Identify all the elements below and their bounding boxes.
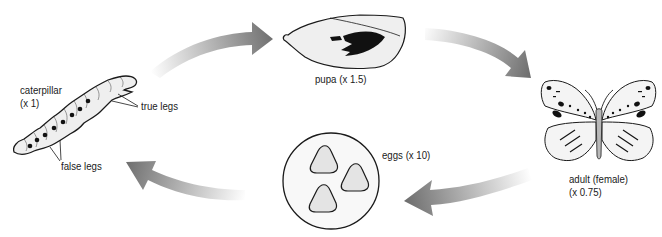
true-legs-label: true legs bbox=[141, 100, 178, 113]
pupa-illustration bbox=[283, 15, 405, 69]
arrow-adult-to-eggs bbox=[404, 168, 532, 216]
adult-scale-label: (x 0.75) bbox=[569, 186, 602, 199]
eggs-illustration bbox=[283, 133, 379, 229]
pupa-label: pupa (x 1.5) bbox=[315, 73, 367, 86]
caterpillar-scale-label: (x 1) bbox=[20, 97, 39, 110]
arrow-pupa-to-adult bbox=[425, 28, 531, 78]
caterpillar-label: caterpillar bbox=[20, 84, 62, 97]
false-legs-label: false legs bbox=[61, 160, 102, 173]
adult-butterfly-illustration bbox=[541, 80, 656, 161]
arrow-eggs-to-caterpillar bbox=[126, 161, 245, 200]
adult-label: adult (female) bbox=[569, 173, 628, 186]
false-legs-pointer bbox=[60, 140, 61, 160]
life-cycle-diagram bbox=[0, 0, 662, 237]
arrow-caterpillar-to-pupa bbox=[150, 22, 273, 78]
true-legs-pointer bbox=[118, 94, 138, 106]
false-legs-pointer bbox=[50, 147, 60, 161]
eggs-label: eggs (x 10) bbox=[382, 149, 430, 162]
